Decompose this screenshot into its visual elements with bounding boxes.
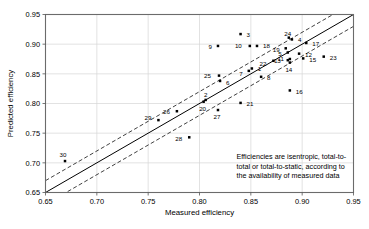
data-point-marker [202,100,205,103]
data-point-marker [217,45,220,48]
data-point-label: 8 [267,74,271,81]
y-axis-title: Predicted efficiency [6,70,15,138]
data-point-label: 30 [60,151,67,158]
data-point: 26 [163,108,178,115]
data-point: 28 [175,135,190,142]
data-point-marker [287,51,290,54]
data-point-marker [219,80,222,83]
data-point-marker [302,57,305,60]
xtick-label: 0.85 [244,197,258,206]
data-point-label: 16 [296,88,303,95]
data-point-label: 28 [175,135,182,142]
data-point-label: 14 [285,66,292,73]
data-point-marker [287,59,290,62]
data-point: 23 [322,54,337,61]
data-point-label: 22 [260,60,267,67]
data-point-label: 2 [204,91,208,98]
annotation-line: total or total-to-static, according to [236,162,344,171]
annotation-line: the availability of measured data [236,171,339,180]
data-point: 21 [239,100,254,107]
data-point-marker [256,45,259,48]
xtick-label: 0.90 [295,197,309,206]
ytick-label: 0.70 [26,159,40,168]
xtick-label: 0.65 [38,197,52,206]
data-point-label: 15 [309,56,316,63]
data-point: 30 [60,151,67,162]
data-point-label: 18 [263,42,270,49]
data-point-marker [289,89,292,92]
data-point: 8 [260,74,271,81]
scatter-plot: 0.650.700.750.800.850.900.950.650.700.75… [0,0,369,229]
data-point-label: 23 [330,54,337,61]
chart-figure: 0.650.700.750.800.850.900.950.650.700.75… [0,0,369,229]
data-point-label: 17 [312,40,319,47]
data-point-marker [251,67,254,70]
data-point-marker [64,160,67,163]
xtick-label: 0.75 [141,197,155,206]
data-point: 2 [204,91,208,101]
data-point-label: 7 [239,70,243,77]
data-point-label: 9 [209,43,213,50]
data-point-marker [176,110,179,113]
data-point-marker [305,42,308,45]
data-point: 16 [289,88,304,95]
data-point-label: 21 [247,100,254,107]
data-point: 20 [199,100,206,111]
data-point: 25 [204,72,220,79]
ytick-label: 0.95 [26,10,40,19]
data-point-label: 4 [298,36,302,43]
ytick-label: 0.85 [26,70,40,79]
data-point-marker [272,60,275,63]
data-point-marker [239,33,242,36]
data-point-marker [217,109,220,112]
data-point: 10 [235,42,251,49]
data-point-marker [284,47,287,50]
xtick-label: 0.70 [90,197,104,206]
data-point-label: 29 [145,114,152,121]
data-point-marker [289,61,292,64]
data-point-marker [188,136,191,139]
data-point-marker [239,102,242,105]
data-point-label: 20 [199,105,206,112]
data-point-marker [218,74,221,77]
data-point-label: 24 [284,30,291,37]
data-point-label: 19 [273,46,280,53]
ytick-label: 0.65 [26,188,40,197]
data-point-marker [249,45,252,48]
data-point-marker [291,38,294,41]
data-point-label: 3 [247,31,251,38]
data-point: 24 [284,30,291,39]
ytick-label: 0.80 [26,99,40,108]
data-point-label: 10 [235,42,242,49]
data-point: 6 [219,79,230,86]
data-point: 4 [291,36,302,43]
data-point-label: 27 [214,113,221,120]
data-point-marker [322,55,325,58]
data-point: 14 [285,61,292,72]
data-point: 3 [239,31,250,38]
xtick-label: 0.95 [346,197,360,206]
data-point-marker [157,119,160,122]
data-point-label: 6 [226,79,230,86]
xtick-label: 0.80 [192,197,206,206]
data-point-label: 26 [163,108,170,115]
data-point-marker [298,52,301,55]
data-point-marker [248,70,251,73]
x-axis-title: Measured efficiency [165,208,234,217]
ytick-label: 0.75 [26,129,40,138]
data-point: 22 [260,60,275,67]
data-point: 27 [214,109,221,120]
data-point-label: 13 [274,57,281,64]
ytick-label: 0.90 [26,40,40,49]
data-point-label: 25 [204,72,211,79]
data-point: 29 [145,114,160,121]
data-point-marker [260,76,263,79]
data-point: 18 [256,42,271,49]
data-point: 7 [239,70,250,77]
annotation-line: Efficiencies are isentropic, total-to- [236,152,346,161]
